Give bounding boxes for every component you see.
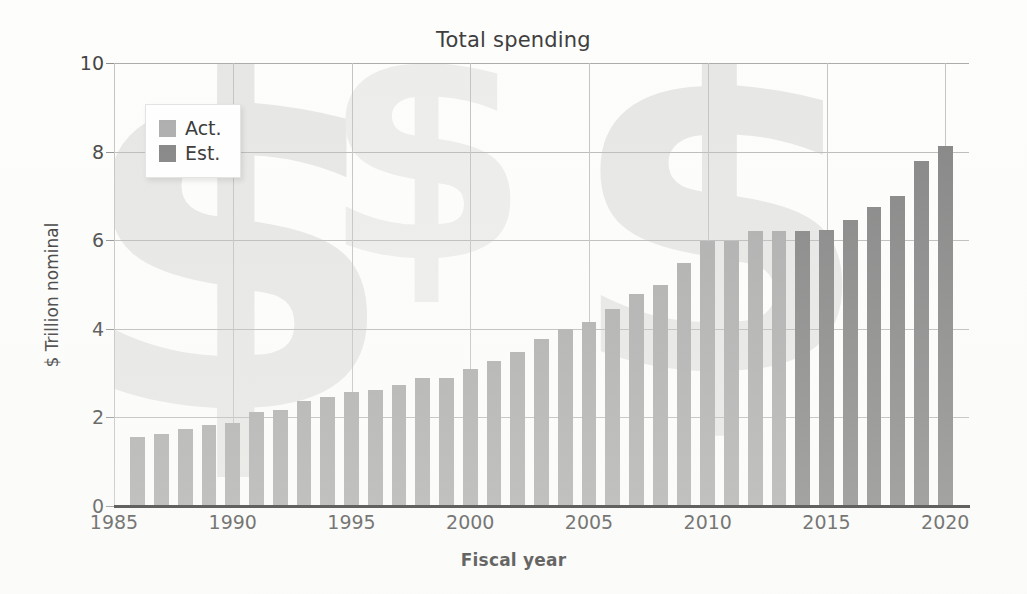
x-axis-tick-label: 2020 [921,511,969,533]
x-axis-tick-label: 1990 [209,511,257,533]
bar [178,429,193,506]
bar [273,410,288,506]
bar [605,309,620,506]
y-axis-tick [106,506,114,507]
x-axis-tick-label: 2015 [802,511,850,533]
x-axis-tick-label: 1985 [90,511,138,533]
legend-item-act[interactable]: Act. [159,116,222,141]
y-axis-title: $ Trillion nominal [42,95,62,495]
bar [249,412,264,506]
bar [392,385,407,506]
x-axis-tick-label: 2000 [446,511,494,533]
legend-swatch-act-icon [159,120,176,137]
x-axis-title: Fiscal year [0,550,1027,570]
bar [202,425,217,506]
bar [843,220,858,506]
bar [677,263,692,506]
y-axis-tick [106,329,114,330]
bar [463,369,478,506]
bar [724,241,739,506]
x-axis-tick-label: 2010 [684,511,732,533]
bar [772,231,787,506]
x-axis-tick-label: 1995 [327,511,375,533]
bar [415,378,430,506]
bar [629,294,644,506]
plot-area: $ $ $ [114,63,969,506]
bars-layer [114,63,969,506]
y-axis-tick-label: 10 [80,52,104,74]
bar [890,196,905,506]
bar [487,361,502,506]
bar [653,285,668,506]
x-axis-tick-labels: 19851990199520002005201020152020 [0,511,1027,541]
legend-label-act: Act. [185,119,222,138]
y-axis-tick-label: 8 [92,141,104,163]
bar [154,434,169,506]
y-axis-tick-labels: 0246810 [62,63,104,506]
bar [439,378,454,506]
y-axis-tick [106,152,114,153]
legend-swatch-est-icon [159,145,176,162]
bar [582,322,597,506]
bar [914,161,929,506]
bar [819,230,834,506]
x-axis-tick-label: 2005 [565,511,613,533]
bar [510,352,525,506]
bar [938,146,953,506]
bar [368,390,383,507]
bar [320,397,335,506]
bar [297,401,312,506]
y-axis-tick [106,417,114,418]
y-axis-ticks [106,63,114,506]
bar [867,207,882,506]
y-axis-tick [106,63,114,64]
legend-item-est[interactable]: Est. [159,141,222,166]
legend: Act. Est. [145,104,241,178]
legend-label-est: Est. [185,144,220,163]
chart-page: Total spending $ $ $ 0246810 19851990199… [0,0,1027,594]
bar [795,231,810,506]
bar [748,231,763,506]
bar [344,392,359,506]
y-axis-tick-label: 2 [92,406,104,428]
y-axis-tick-label: 6 [92,229,104,251]
bar [558,329,573,506]
x-axis-line [114,505,970,508]
bar [534,339,549,506]
bar [130,437,145,506]
y-axis-tick-label: 4 [92,318,104,340]
page-title: Total spending [0,28,1027,52]
y-axis-tick [106,240,114,241]
bar [225,423,240,506]
bar [700,241,715,506]
